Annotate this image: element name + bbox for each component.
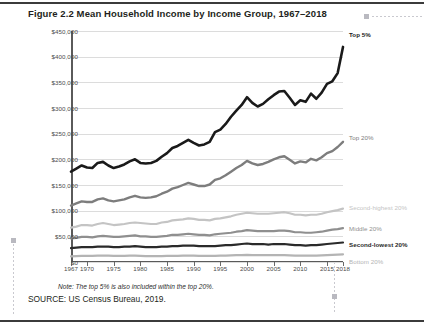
y-axis-tick-label: $50,000 [18, 233, 78, 240]
y-axis-tick-label: $400,000 [18, 53, 78, 60]
series-label-top-20: Top 20% [349, 134, 373, 141]
series-label-second-highest-20: Second-highest 20% [349, 204, 407, 211]
series-lines [71, 31, 343, 262]
y-axis-tick-label: $100,000 [18, 207, 78, 214]
decorative-dotted-line-left [13, 244, 14, 316]
series-line [71, 47, 343, 172]
figure-title: Figure 2.2 Mean Household Income by Inco… [28, 8, 327, 19]
x-axis-tick-label: 1985 [152, 265, 182, 272]
x-axis-tick-label: 1990 [179, 265, 209, 272]
decorative-dot-top [364, 14, 369, 19]
decorative-dotted-line-top [372, 16, 424, 17]
x-axis-tick-label: 2005 [259, 265, 289, 272]
y-axis-tick-label: $450,000 [18, 28, 78, 35]
series-line [71, 228, 343, 238]
figure-source: SOURCE: US Census Bureau, 2019. [28, 294, 166, 304]
gridline [71, 262, 343, 263]
x-axis-tick-label: 1970 [72, 265, 102, 272]
series-label-second-lowest-20: Second-lowest 20% [349, 241, 408, 248]
x-axis-tick-label: 1995 [205, 265, 235, 272]
plot-area: Top 5%Top 20%Second-highest 20%Middle 20… [71, 31, 343, 262]
series-label-bottom-20: Bottom 20% [349, 258, 383, 265]
y-axis-tick-label: $250,000 [18, 130, 78, 137]
x-axis-tick-label: 2000 [232, 265, 262, 272]
top-rule [0, 2, 424, 4]
decorative-dot-bottom [332, 294, 337, 299]
series-line [71, 254, 343, 256]
y-axis-tick-label: $200,000 [18, 156, 78, 163]
x-axis-tick-label: 1975 [99, 265, 129, 272]
series-label-top-5: Top 5% [349, 31, 371, 38]
figure-page: Figure 2.2 Mean Household Income by Inco… [0, 0, 424, 324]
decorative-dot-left [11, 238, 16, 243]
figure-note: Note: The top 5% is also included within… [58, 283, 214, 290]
series-line [71, 209, 343, 228]
x-axis-tick-label: 2018 [328, 265, 358, 272]
series-label-middle-20: Middle 20% [349, 225, 382, 232]
series-line [71, 242, 343, 248]
x-axis-tick-label: 1980 [125, 265, 155, 272]
x-axis-tick-label: 2010 [285, 265, 315, 272]
y-axis-tick-label: $150,000 [18, 182, 78, 189]
bottom-rule [0, 320, 424, 322]
series-line [71, 142, 343, 206]
y-axis-tick-label: $300,000 [18, 105, 78, 112]
y-axis-tick-label: $350,000 [18, 79, 78, 86]
